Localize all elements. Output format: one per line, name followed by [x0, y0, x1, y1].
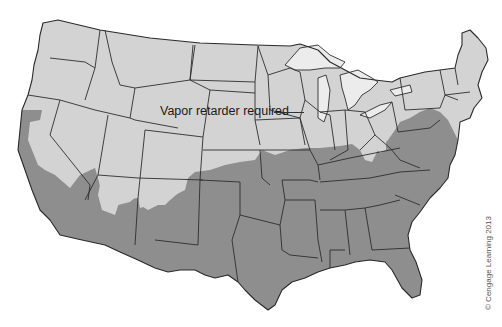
label-leader-line — [274, 112, 304, 113]
copyright-credit: © Cengage Learning 2013 — [484, 216, 493, 310]
vapor-retarder-label: Vapor retarder required — [160, 104, 289, 118]
us-map — [0, 0, 502, 327]
